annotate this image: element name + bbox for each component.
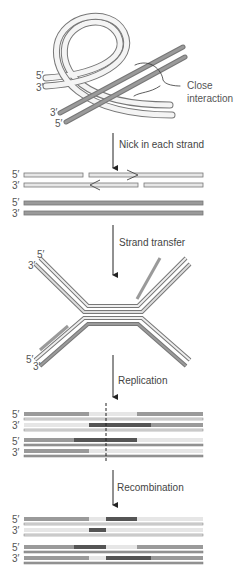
strand-end-label: 3′ xyxy=(12,526,19,536)
strand-end-label: 3′ xyxy=(12,421,19,431)
strand-end-label: 5′ xyxy=(12,515,19,525)
strand-end-label: 3′ xyxy=(12,209,19,219)
step-label-strand-transfer: Strand transfer xyxy=(119,238,185,248)
step-label-nick: Nick in each strand xyxy=(119,140,204,150)
recombinant-duplexes xyxy=(24,517,203,564)
strand-end-label: 3′ xyxy=(33,362,40,372)
strand-end-label: 5′ xyxy=(37,250,44,260)
nicked-duplexes xyxy=(24,170,203,215)
strand-end-label: 5′ xyxy=(12,170,19,180)
step-label-replication: Replication xyxy=(118,376,167,386)
replicated-duplexes xyxy=(24,403,203,462)
strand-end-label: 3′ xyxy=(12,554,19,564)
strand-end-label: 3′ xyxy=(36,83,43,93)
strand-end-label: 5′ xyxy=(12,198,19,208)
strand-end-label: 3′ xyxy=(28,261,35,271)
strand-end-label: 3′ xyxy=(12,181,19,191)
annotation-interaction: interaction xyxy=(187,94,233,104)
strand-end-label: 3′ xyxy=(50,108,57,118)
strand-end-label: 5′ xyxy=(12,543,19,553)
strand-end-label: 5′ xyxy=(12,410,19,420)
step-label-recombination: Recombination xyxy=(117,483,184,493)
annotation-close: Close xyxy=(187,81,213,91)
strand-end-label: 5′ xyxy=(36,71,43,81)
strand-end-label: 5′ xyxy=(12,437,19,447)
strand-end-label: 3′ xyxy=(12,448,19,458)
synapsis-loop xyxy=(46,16,185,122)
strand-end-label: 5′ xyxy=(55,119,62,129)
